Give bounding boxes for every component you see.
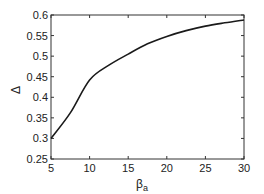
x-axis-ticks: 51015202530 <box>48 15 250 174</box>
x-tick-label: 10 <box>83 162 95 174</box>
x-tick-label: 20 <box>161 162 173 174</box>
y-tick-label: 0.3 <box>33 132 48 144</box>
y-axis-label: Δ <box>9 86 23 94</box>
line-chart: 0.250.30.350.40.450.50.550.6 51015202530… <box>0 0 264 194</box>
x-tick-label: 5 <box>48 162 54 174</box>
y-axis-ticks: 0.250.30.350.40.450.50.550.6 <box>27 9 244 165</box>
x-tick-label: 30 <box>238 162 250 174</box>
y-tick-label: 0.6 <box>33 9 48 21</box>
x-axis-label: βa <box>136 177 148 193</box>
plot-frame <box>51 15 244 159</box>
x-tick-label: 15 <box>122 162 134 174</box>
data-curve <box>51 20 244 138</box>
y-tick-label: 0.45 <box>27 71 48 83</box>
y-tick-label: 0.25 <box>27 153 48 165</box>
y-tick-label: 0.55 <box>27 30 48 42</box>
x-tick-label: 25 <box>199 162 211 174</box>
y-tick-label: 0.4 <box>33 91 48 103</box>
y-tick-label: 0.5 <box>33 50 48 62</box>
x-axis-label-sub: a <box>143 183 148 193</box>
y-tick-label: 0.35 <box>27 112 48 124</box>
